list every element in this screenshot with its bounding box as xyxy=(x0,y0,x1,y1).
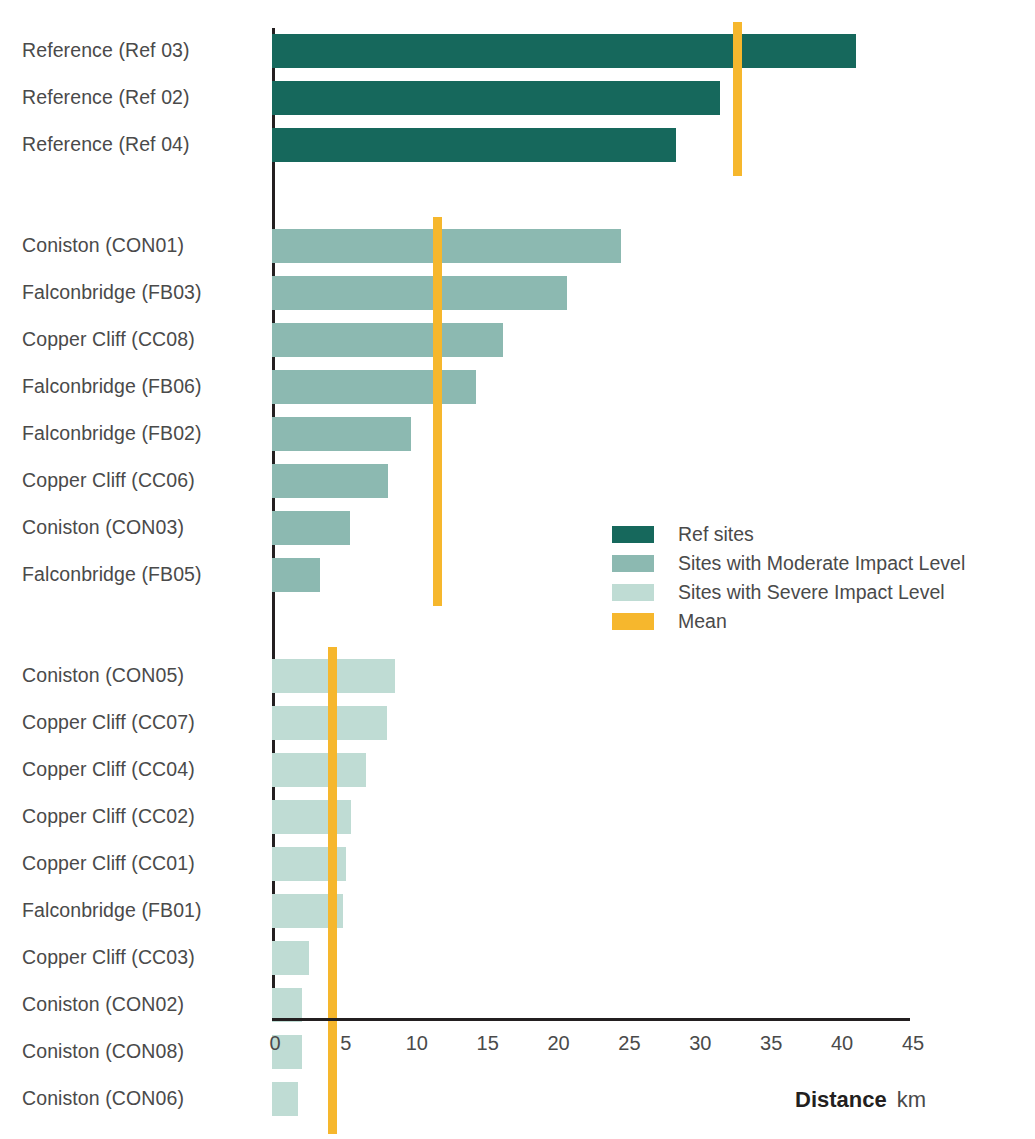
legend-swatch-ref xyxy=(612,526,654,543)
category-label: Falconbridge (FB03) xyxy=(22,281,272,304)
legend-label: Mean xyxy=(678,610,727,633)
category-label: Copper Cliff (CC07) xyxy=(22,711,272,734)
bar-row[interactable] xyxy=(272,800,351,834)
x-tick-label: 10 xyxy=(406,1032,428,1055)
bar-row[interactable] xyxy=(272,323,503,357)
category-label: Coniston (CON08) xyxy=(22,1040,272,1063)
bar-row[interactable] xyxy=(272,511,350,545)
bar-row[interactable] xyxy=(272,464,388,498)
x-tick-label: 30 xyxy=(689,1032,711,1055)
x-axis-title: Distancekm xyxy=(795,1087,926,1113)
x-axis-unit-text: km xyxy=(897,1087,926,1112)
category-label: Copper Cliff (CC04) xyxy=(22,758,272,781)
x-tick-label: 35 xyxy=(760,1032,782,1055)
category-label: Reference (Ref 03) xyxy=(22,39,272,62)
bar-severe[interactable] xyxy=(272,988,302,1022)
bar-row[interactable] xyxy=(272,417,411,451)
bar-moderate[interactable] xyxy=(272,417,411,451)
bar-ref[interactable] xyxy=(272,128,676,162)
bar-row[interactable] xyxy=(272,1082,298,1116)
legend-item[interactable]: Sites with Severe Impact Level xyxy=(612,578,1012,607)
x-tick-label: 20 xyxy=(547,1032,569,1055)
category-label: Copper Cliff (CC08) xyxy=(22,328,272,351)
bar-moderate[interactable] xyxy=(272,323,503,357)
bar-moderate[interactable] xyxy=(272,558,320,592)
bar-row[interactable] xyxy=(272,229,621,263)
legend-item[interactable]: Ref sites xyxy=(612,520,1012,549)
x-tick-label: 25 xyxy=(618,1032,640,1055)
bar-row[interactable] xyxy=(272,753,366,787)
bar-moderate[interactable] xyxy=(272,511,350,545)
category-labels-column: Reference (Ref 03)Reference (Ref 02)Refe… xyxy=(20,28,272,1020)
legend-label: Sites with Moderate Impact Level xyxy=(678,552,965,575)
bar-ref[interactable] xyxy=(272,34,856,68)
legend-item[interactable]: Sites with Moderate Impact Level xyxy=(612,549,1012,578)
horizontal-bar-chart: Reference (Ref 03)Reference (Ref 02)Refe… xyxy=(0,0,1035,1139)
x-axis-title-text: Distance xyxy=(795,1087,887,1112)
bar-row[interactable] xyxy=(272,370,476,404)
bar-moderate[interactable] xyxy=(272,229,621,263)
bar-ref[interactable] xyxy=(272,81,720,115)
bar-row[interactable] xyxy=(272,34,856,68)
bar-row[interactable] xyxy=(272,81,720,115)
x-tick-label: 5 xyxy=(340,1032,351,1055)
mean-line xyxy=(433,217,442,606)
category-label: Falconbridge (FB05) xyxy=(22,563,272,586)
legend-swatch-moderate xyxy=(612,555,654,572)
bar-moderate[interactable] xyxy=(272,276,567,310)
bar-moderate[interactable] xyxy=(272,464,388,498)
category-label: Falconbridge (FB01) xyxy=(22,899,272,922)
category-label: Falconbridge (FB06) xyxy=(22,375,272,398)
x-tick-label: 45 xyxy=(902,1032,924,1055)
category-label: Falconbridge (FB02) xyxy=(22,422,272,445)
category-label: Copper Cliff (CC01) xyxy=(22,852,272,875)
bar-row[interactable] xyxy=(272,128,676,162)
legend-label: Ref sites xyxy=(678,523,754,546)
legend-label: Sites with Severe Impact Level xyxy=(678,581,945,604)
x-tick-label: 0 xyxy=(269,1032,280,1055)
x-tick-label: 40 xyxy=(831,1032,853,1055)
category-label: Copper Cliff (CC03) xyxy=(22,946,272,969)
legend-swatch-mean xyxy=(612,613,654,630)
category-label: Copper Cliff (CC06) xyxy=(22,469,272,492)
bar-severe[interactable] xyxy=(272,1082,298,1116)
bar-row[interactable] xyxy=(272,941,309,975)
legend-item[interactable]: Mean xyxy=(612,607,1012,636)
bar-severe[interactable] xyxy=(272,800,351,834)
bar-row[interactable] xyxy=(272,276,567,310)
bar-severe[interactable] xyxy=(272,753,366,787)
legend-swatch-severe xyxy=(612,584,654,601)
x-axis-line xyxy=(272,1018,910,1021)
category-label: Reference (Ref 02) xyxy=(22,86,272,109)
category-label: Coniston (CON05) xyxy=(22,664,272,687)
bar-severe[interactable] xyxy=(272,941,309,975)
category-label: Coniston (CON06) xyxy=(22,1087,272,1110)
category-label: Copper Cliff (CC02) xyxy=(22,805,272,828)
bar-row[interactable] xyxy=(272,558,320,592)
bar-row[interactable] xyxy=(272,988,302,1022)
bar-moderate[interactable] xyxy=(272,370,476,404)
x-tick-label: 15 xyxy=(477,1032,499,1055)
mean-line xyxy=(328,647,337,1134)
category-label: Coniston (CON02) xyxy=(22,993,272,1016)
category-label: Coniston (CON03) xyxy=(22,516,272,539)
category-label: Coniston (CON01) xyxy=(22,234,272,257)
category-label: Reference (Ref 04) xyxy=(22,133,272,156)
chart-legend: Ref sitesSites with Moderate Impact Leve… xyxy=(612,520,1012,636)
mean-line xyxy=(733,22,742,176)
